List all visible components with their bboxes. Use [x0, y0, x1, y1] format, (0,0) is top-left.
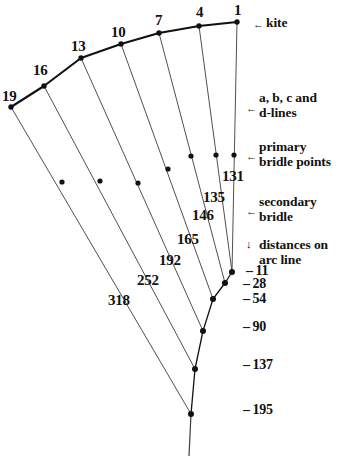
junction-point-group: [188, 269, 235, 417]
distance-label-137: – 137: [243, 357, 273, 373]
arc-label-10: 10: [111, 24, 126, 41]
primary-bridle-point: [213, 152, 218, 157]
arc-point-7: [156, 30, 161, 35]
tow-line: [189, 414, 191, 456]
primary-bridle-point: [135, 180, 140, 185]
link-90-137: [195, 331, 203, 369]
arc-point-1: [234, 19, 239, 24]
cascade-link-group: [191, 272, 232, 414]
line-length-label-192: 192: [159, 252, 181, 269]
distance-value: 137: [252, 357, 272, 372]
line-1: [232, 22, 237, 272]
line-length-label-131: 131: [222, 168, 244, 185]
primary-bridle-point: [59, 179, 64, 184]
line-length-label-165: 165: [177, 231, 199, 248]
line-length-label-135: 135: [203, 189, 225, 206]
bridle-diagram: 19161310741 318252192165146135131 – 11– …: [0, 0, 346, 456]
arc-label-4: 4: [196, 4, 203, 21]
primary-bridle-point-group: [59, 152, 236, 185]
arc-point-16: [41, 83, 46, 88]
arc-point-4: [196, 23, 201, 28]
arc-label-13: 13: [71, 38, 86, 55]
annotation-arrow-primary-bridle-points: ←: [246, 150, 257, 162]
distance-tick-dash: –: [243, 357, 252, 372]
line-16: [44, 86, 195, 369]
distance-label-28: – 28: [243, 276, 266, 292]
annotation-label-distances-on-arc-line: distances on arc line: [259, 237, 328, 267]
arc-point-10: [118, 41, 123, 46]
link-54-90: [203, 299, 213, 331]
junction-point-137: [192, 366, 198, 372]
tow-line-group: [189, 414, 191, 456]
annotation-arrow-distances-on-arc-line: ↓: [246, 238, 252, 250]
annotation-label-secondary-bridle: secondary bridle: [259, 194, 317, 224]
distance-tick-dash: –: [243, 319, 252, 334]
line-length-label-252: 252: [137, 272, 159, 289]
distance-tick-dash: –: [243, 402, 252, 417]
diagram-canvas: [0, 0, 346, 456]
annotation-arrow-kite: ←: [253, 18, 264, 30]
junction-point-90: [200, 328, 206, 334]
annotation-arrow-secondary-bridle: ←: [246, 205, 257, 217]
junction-point-11: [229, 269, 235, 275]
distance-value: 195: [252, 402, 272, 417]
distance-value: 28: [252, 276, 266, 291]
distance-tick-dash: –: [243, 291, 252, 306]
primary-bridle-point: [97, 178, 102, 183]
primary-bridle-point: [165, 166, 170, 171]
arc-label-1: 1: [234, 2, 241, 19]
junction-point-54: [210, 296, 216, 302]
annotation-arrow-abcd-lines: ←: [246, 102, 257, 114]
junction-point-195: [188, 411, 194, 417]
primary-bridle-point: [188, 153, 193, 158]
arc-point-13: [78, 55, 83, 60]
distance-value: 90: [252, 319, 266, 334]
link-137-195: [191, 369, 195, 414]
distance-tick-dash: –: [243, 276, 252, 291]
arc-label-16: 16: [33, 62, 48, 79]
annotation-label-primary-bridle-points: primary bridle points: [259, 139, 331, 169]
junction-point-28: [222, 280, 228, 286]
arc-label-7: 7: [155, 12, 162, 29]
line-length-label-146: 146: [192, 207, 214, 224]
distance-value: 54: [252, 291, 266, 306]
line-length-label-318: 318: [108, 292, 130, 309]
line-13: [81, 58, 203, 331]
annotation-label-abcd-lines: a, b, c and d-lines: [259, 90, 317, 120]
arc-label-19: 19: [2, 88, 17, 105]
line-4: [199, 26, 232, 272]
annotation-label-kite: kite: [266, 15, 287, 30]
distance-label-54: – 54: [243, 291, 266, 307]
arc-point-19: [8, 104, 13, 109]
distance-label-195: – 195: [243, 402, 273, 418]
distance-label-90: – 90: [243, 319, 266, 335]
primary-bridle-point: [231, 152, 236, 157]
